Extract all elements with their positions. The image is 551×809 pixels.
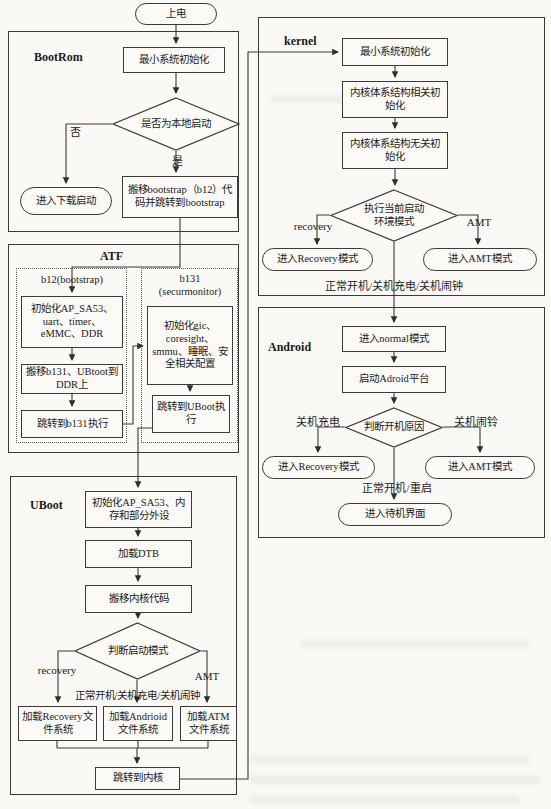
decision-is-local-boot: 是否为本地启动: [112, 97, 240, 151]
node-atf-jump-b131: 跳转到b131执行: [21, 410, 123, 438]
node-uboot-load-android-fs: 加载Andrioid文件系统: [103, 706, 173, 741]
branch-poweroff-alarm-label: 关机闹铃: [452, 416, 500, 429]
section-uboot-title: UBoot: [30, 498, 86, 512]
node-android-enter-amt: 进入AMT模式: [425, 456, 535, 479]
node-uboot-load-dtb: 加载DTB: [85, 540, 192, 568]
group-b12-title: b12(bootstrap): [22, 274, 122, 287]
branch-recovery-label-kernel: recovery: [286, 220, 340, 233]
branch-no-label: 否: [66, 126, 84, 140]
node-uboot-init-ap-mem: 初始化AP_SA53、内存和部分外设: [85, 491, 192, 528]
node-power-on: 上电: [135, 3, 217, 25]
section-atf-title: ATF: [100, 249, 140, 263]
group-b131-title: b131 (securmonitor): [146, 273, 234, 301]
node-bootrom-min-sys-init: 最小系统初始化: [123, 47, 225, 73]
branch-yes-label: 是: [168, 155, 186, 169]
decision-exec-boot-env-label: 执行当前启动环境模式: [360, 203, 428, 229]
node-android-enter-normal: 进入normal模式: [342, 326, 446, 352]
decision-exec-boot-env: 执行当前启动环境模式: [330, 189, 458, 242]
boot-flowchart-page: 上电 BootRom 最小系统初始化 是否为本地启动 否 是 进入下载启动 搬移…: [0, 0, 551, 809]
node-android-enter-standby: 进入待机界面: [338, 503, 452, 526]
branch-normal-reboot-label: 正常开机/重启: [352, 482, 442, 495]
section-kernel-title: kernel: [284, 34, 334, 48]
node-uboot-move-kernel-code: 搬移内核代码: [85, 585, 192, 613]
branch-poweroff-charge-label: 关机充电: [294, 416, 342, 429]
node-uboot-load-recovery-fs: 加载Recovery文件系统: [18, 706, 97, 741]
node-uboot-load-atm-fs: 加载ATM文件系统: [180, 706, 237, 741]
decision-is-local-boot-label: 是否为本地启动: [141, 118, 211, 131]
node-android-start-adroid: 启动Adroid平台: [342, 366, 446, 393]
node-atf-init-ap: 初始化AP_SA53、uart、timer、eMMC、DDR: [21, 296, 123, 348]
decision-judge-boot-mode-label: 判断启动模式: [108, 645, 168, 658]
node-move-bootstrap: 搬移bootstrap（b12）代码并跳转到bootstrap: [122, 176, 238, 218]
node-enter-download-boot: 进入下载启动: [20, 187, 112, 215]
branch-amt-label-kernel: AMT: [461, 216, 497, 229]
node-atf-move-b131: 搬移b131、UBtoot到DDR上: [21, 364, 123, 394]
node-uboot-jump-kernel: 跳转到内核: [95, 767, 180, 790]
decision-judge-boot-mode: 判断启动模式: [74, 622, 201, 680]
node-kernel-enter-recovery: 进入Recovery模式: [262, 248, 373, 271]
node-kernel-enter-amt: 进入AMT模式: [423, 248, 537, 271]
branch-recovery-label-uboot: recovery: [30, 664, 84, 677]
branch-normal-label-uboot: 正常开机/关机充电/关机闹钟: [74, 690, 201, 703]
branch-amt-label-uboot: AMT: [190, 670, 224, 683]
decision-judge-power-reason-label: 判断开机原因: [364, 421, 424, 434]
section-android-title: Android: [268, 340, 328, 354]
node-atf-jump-uboot: 跳转到UBoot执行: [152, 395, 230, 433]
node-kernel-min-sys-init: 最小系统初始化: [342, 38, 448, 66]
section-bootrom-title: BootRom: [34, 50, 104, 64]
branch-normal-label-kernel: 正常开机/关机充电/关机闹钟: [322, 280, 466, 293]
decision-judge-power-reason: 判断开机原因: [345, 407, 443, 448]
node-kernel-arch-related-init: 内核体系结构相关初始化: [342, 81, 448, 118]
group-b131-title-line1: b131: [146, 273, 234, 286]
node-atf-init-gic: 初始化gic、coresight、smmu、睡眠、安全相关配置: [147, 306, 233, 385]
node-kernel-arch-unrelated-init: 内核体系结构无关初始化: [342, 132, 448, 169]
group-b131-title-line2: (securmonitor): [146, 286, 234, 299]
node-android-enter-recovery: 进入Recovery模式: [262, 456, 375, 479]
